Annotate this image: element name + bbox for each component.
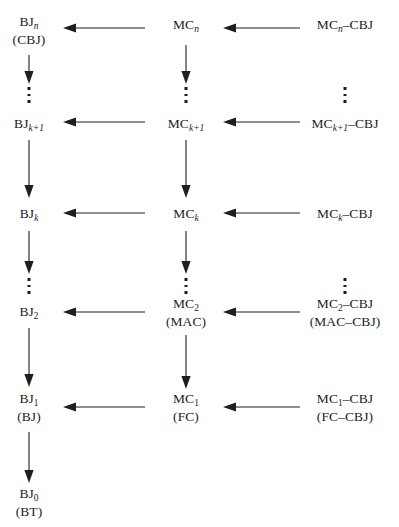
- node-bj-0-line2: (BT): [16, 504, 43, 521]
- node-mccbj-n: MCn–CBJ: [317, 17, 373, 35]
- arrow-cbjk1-to-mck1: [223, 117, 300, 126]
- mc-ellipsis-upper-icon: [184, 87, 189, 103]
- node-bj-k1-line1: BJk+1: [14, 116, 44, 134]
- node-mc-k1-line1: MCk+1: [168, 116, 205, 134]
- node-mccbj-k1: MCk+1–CBJ: [311, 116, 378, 134]
- node-mccbj-k: MCk–CBJ: [317, 206, 373, 224]
- arrow-mc2-to-mc1: [181, 335, 190, 389]
- node-mccbj-2: MC2–CBJ (MAC–CBJ): [310, 296, 381, 330]
- arrow-bjk1-down: [24, 140, 33, 198]
- arrow-mc1-to-bj1: [63, 402, 145, 411]
- arrow-bj1-down: [24, 432, 33, 483]
- node-bj-0-line1: BJ0: [16, 486, 43, 504]
- node-mccbj-2-line1: MC2–CBJ: [310, 296, 381, 314]
- node-mc-n: MCn: [173, 17, 199, 35]
- arrow-bjn-down: [24, 55, 33, 84]
- node-mccbj-1-line2: (FC–CBJ): [317, 409, 373, 426]
- node-mccbj-k-line1: MCk–CBJ: [317, 206, 373, 224]
- arrow-cbj2-to-mc2: [223, 307, 300, 316]
- arrow-mcn-to-bjn: [63, 23, 145, 32]
- node-mccbj-k1-line1: MCk+1–CBJ: [311, 116, 378, 134]
- bj-ellipsis-lower-icon: [27, 278, 32, 294]
- node-mc-2: MC2 (MAC): [166, 296, 206, 330]
- node-mccbj-2-line2: (MAC–CBJ): [310, 314, 381, 331]
- arrow-mck-down: [181, 231, 190, 274]
- mc-ellipsis-lower-icon: [184, 278, 189, 294]
- arrow-bjk-down: [24, 231, 33, 274]
- arrow-layer: [0, 0, 399, 527]
- node-bj-2-line1: BJ2: [19, 304, 38, 322]
- arrow-mcn-down: [181, 45, 190, 84]
- node-bj-0: BJ0 (BT): [16, 486, 43, 520]
- node-mccbj-1-line1: MC1–CBJ: [317, 391, 373, 409]
- node-bj-k1: BJk+1: [14, 116, 44, 134]
- node-mc-k1: MCk+1: [168, 116, 205, 134]
- node-mc-2-line2: (MAC): [166, 314, 206, 331]
- arrow-mck-to-bjk: [63, 208, 145, 217]
- arrow-mc2-to-bj2: [63, 307, 145, 316]
- node-bj-n-line2: (CBJ): [13, 32, 46, 49]
- node-mc-k: MCk: [173, 206, 198, 224]
- node-bj-1-line1: BJ1: [17, 391, 41, 409]
- node-bj-n: BJn (CBJ): [13, 14, 46, 48]
- node-mc-1-line1: MC1: [173, 391, 199, 409]
- node-mc-1-line2: (FC): [173, 409, 199, 426]
- node-bj-n-line1: BJn: [13, 14, 46, 32]
- hierarchy-diagram: BJn (CBJ) BJk+1 BJk BJ2 BJ1 (BJ) BJ0 (BT…: [0, 0, 399, 527]
- node-bj-1: BJ1 (BJ): [17, 391, 41, 425]
- mccbj-ellipsis-lower-icon: [343, 278, 348, 294]
- mccbj-ellipsis-upper-icon: [343, 87, 348, 103]
- node-mccbj-n-line1: MCn–CBJ: [317, 17, 373, 35]
- node-mc-2-line1: MC2: [166, 296, 206, 314]
- bj-ellipsis-upper-icon: [27, 87, 32, 103]
- node-mccbj-1: MC1–CBJ (FC–CBJ): [317, 391, 373, 425]
- node-mc-k-line1: MCk: [173, 206, 198, 224]
- node-bj-2: BJ2: [19, 304, 38, 322]
- node-bj-k: BJk: [20, 206, 39, 224]
- arrow-bj2-down: [24, 328, 33, 387]
- node-bj-1-line2: (BJ): [17, 409, 41, 426]
- node-mc-n-line1: MCn: [173, 17, 199, 35]
- node-mc-1: MC1 (FC): [173, 391, 199, 425]
- arrow-cbj1-to-mc1: [223, 402, 300, 411]
- arrow-cbjn-to-mcn: [223, 23, 300, 32]
- arrow-mck1-to-bjk1: [63, 117, 145, 126]
- node-bj-k-line1: BJk: [20, 206, 39, 224]
- arrow-cbjk-to-mck: [223, 208, 300, 217]
- arrow-mck1-to-mck: [181, 140, 190, 198]
